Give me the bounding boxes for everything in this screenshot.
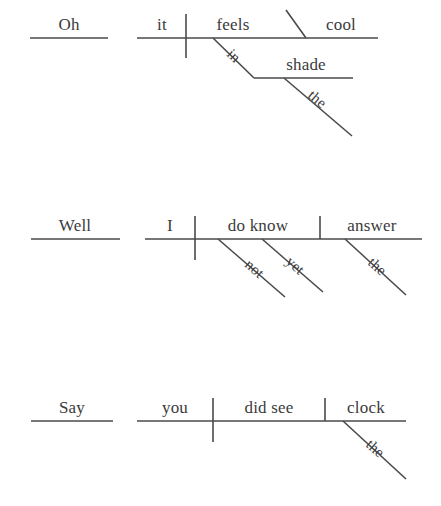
subject-label-3: you <box>162 399 188 416</box>
subject-label-2: I <box>167 217 173 234</box>
subject-label-1: it <box>157 16 167 33</box>
predicate-adjective-slant-1 <box>286 10 306 38</box>
interjection-label-3: Say <box>59 399 85 416</box>
interjection-label-2: Well <box>59 217 91 234</box>
direct-object-label-3: clock <box>347 399 385 416</box>
predicate-adjective-label-1: cool <box>326 16 356 33</box>
preposition-object-label-1: shade <box>286 56 326 73</box>
verb-label-1: feels <box>216 16 249 33</box>
direct-object-label-2: answer <box>347 217 396 234</box>
verb-label-2: do know <box>228 217 288 234</box>
verb-label-3: did see <box>244 399 293 416</box>
interjection-label-1: Oh <box>58 16 79 33</box>
